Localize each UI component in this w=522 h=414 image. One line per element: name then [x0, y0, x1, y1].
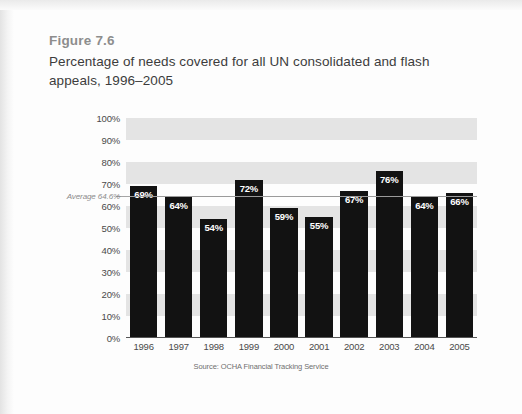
x-axis: 1996199719981999200020012002200320042005	[126, 341, 477, 357]
average-label-connector	[121, 196, 130, 197]
bar: 67%	[340, 191, 367, 338]
y-axis-tick: 70%	[86, 179, 120, 190]
bar-value-label: 55%	[305, 220, 332, 231]
bar: 72%	[235, 180, 262, 338]
x-axis-tick: 2001	[302, 341, 337, 352]
bar-value-label: 72%	[235, 183, 262, 194]
y-axis-tick: 80%	[86, 157, 120, 168]
y-axis-tick: 20%	[86, 289, 120, 300]
source-note: Source: OCHA Financial Tracking Service	[0, 362, 522, 371]
y-axis-tick: 50%	[86, 223, 120, 234]
bar-value-label: 76%	[376, 174, 403, 185]
y-axis-tick: 60%	[86, 201, 120, 212]
x-axis-tick: 2004	[407, 341, 442, 352]
y-axis-tick: 100%	[86, 113, 120, 124]
bar-value-label: 59%	[270, 211, 297, 222]
x-axis-tick: 1999	[231, 341, 266, 352]
x-axis-tick: 1996	[126, 341, 161, 352]
y-axis-tick: 30%	[86, 267, 120, 278]
x-axis-tick: 1998	[196, 341, 231, 352]
bar-series: 69%64%54%72%59%55%67%76%64%66%	[126, 118, 477, 338]
bar-value-label: 69%	[130, 189, 157, 200]
bar: 54%	[200, 219, 227, 338]
plot-area: 69%64%54%72%59%55%67%76%64%66%	[126, 118, 477, 338]
bar: 64%	[411, 197, 438, 338]
bar-value-label: 64%	[411, 200, 438, 211]
x-axis-tick: 2000	[266, 341, 301, 352]
bar: 59%	[270, 208, 297, 338]
bar-value-label: 64%	[165, 200, 192, 211]
bar: 66%	[446, 193, 473, 338]
bar-chart: 100%90%80%70%60%50%40%30%20%10%0% 69%64%…	[0, 0, 522, 414]
y-axis-tick: 40%	[86, 245, 120, 256]
bar: 64%	[165, 197, 192, 338]
figure-page: Figure 7.6 Percentage of needs covered f…	[0, 0, 522, 414]
y-axis: 100%90%80%70%60%50%40%30%20%10%0%	[84, 118, 120, 338]
x-axis-tick: 1997	[161, 341, 196, 352]
bar: 69%	[130, 186, 157, 338]
average-line	[116, 196, 477, 197]
x-axis-tick: 2005	[442, 341, 477, 352]
x-axis-line	[126, 337, 477, 338]
bar-value-label: 66%	[446, 196, 473, 207]
bar: 55%	[305, 217, 332, 338]
y-axis-tick: 10%	[86, 311, 120, 322]
x-axis-tick: 2003	[372, 341, 407, 352]
bar-value-label: 54%	[200, 222, 227, 233]
y-axis-tick: 90%	[86, 135, 120, 146]
y-axis-tick: 0%	[86, 333, 120, 344]
x-axis-tick: 2002	[337, 341, 372, 352]
average-label: Average 64.6%	[42, 191, 120, 200]
